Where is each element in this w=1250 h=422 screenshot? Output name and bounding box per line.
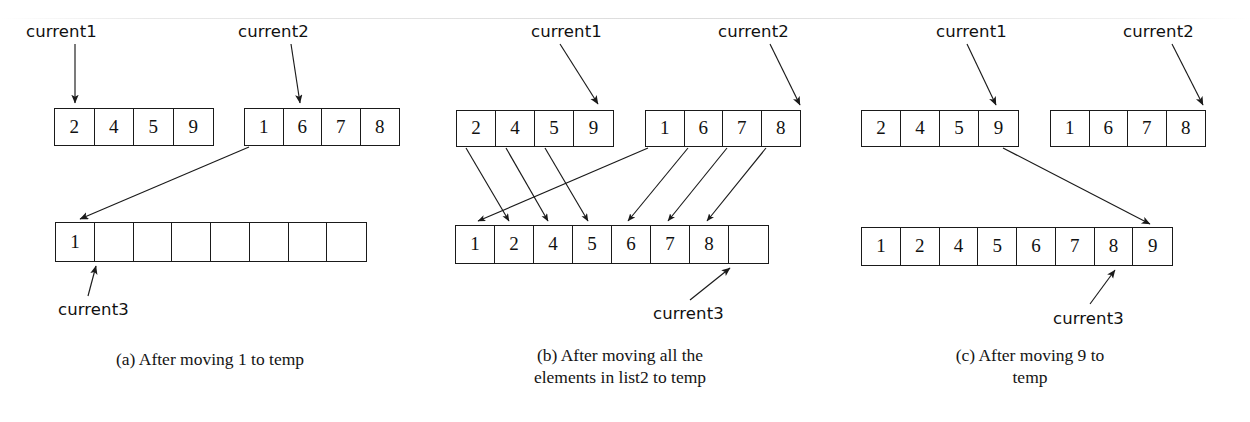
panel-c-current3-label: current3: [1053, 309, 1124, 328]
panel-b-current1-label: current1: [531, 22, 602, 41]
panel-c-move-9-arrow: [1003, 148, 1150, 224]
panel-c-temp-cell-7: 9: [1133, 228, 1172, 265]
panel-a-list2-cell-0: 1: [245, 109, 284, 145]
panel-a-list2-cell-1: 6: [284, 109, 323, 145]
panel-b-move-1-arrow: [478, 148, 648, 221]
panel-b-temp-cell-7: [729, 226, 768, 263]
panel-c-list1-cell-0: 2: [862, 111, 901, 146]
panel-b-current2-label: current2: [718, 22, 789, 41]
panel-c-list2-cell-1: 6: [1090, 111, 1129, 146]
panel-c-temp: 1 2 4 5 6 7 8 9: [861, 227, 1173, 266]
panel-c-current3-arrow: [1090, 270, 1115, 304]
panel-b-list2: 1 6 7 8: [645, 110, 801, 147]
panel-b-current3-label: current3: [653, 304, 724, 323]
panel-a-move-1-arrow: [80, 147, 249, 219]
panel-c-temp-cell-1: 2: [901, 228, 940, 265]
panel-b-move-7-arrow: [668, 148, 727, 221]
panel-a-current2-label: current2: [238, 22, 309, 41]
panel-c-list1-cell-1: 4: [901, 111, 940, 146]
panel-c-current2-arrow: [1172, 44, 1203, 105]
panel-b-list2-cell-3: 8: [762, 111, 800, 146]
panel-b-temp-cell-2: 4: [534, 226, 573, 263]
panel-a-temp-cell-5: [250, 223, 289, 261]
panel-a-caption: (a) After moving 1 to temp: [30, 348, 390, 370]
panel-b-current1-arrow: [560, 44, 598, 104]
panel-b-list1-cell-2: 5: [535, 111, 574, 146]
panel-b-temp-cell-4: 6: [612, 226, 651, 263]
panel-a-temp-cell-1: [95, 223, 134, 261]
panel-c-caption: (c) After moving 9 to temp: [880, 344, 1180, 389]
panel-b-caption: (b) After moving all the elements in lis…: [460, 344, 780, 389]
panel-c-current1-label: current1: [936, 22, 1007, 41]
panel-b-list2-cell-2: 7: [723, 111, 762, 146]
panel-a-list1-cell-1: 4: [95, 109, 135, 145]
panel-c-temp-cell-6: 8: [1095, 228, 1134, 265]
panel-b-current2-arrow: [770, 44, 800, 105]
scan-artifact-line: [0, 18, 1250, 19]
panel-b-list1-cell-3: 9: [574, 111, 613, 146]
panel-a-temp-cell-6: [289, 223, 328, 261]
panel-c-list1-cell-2: 5: [940, 111, 979, 146]
panel-b-move-6-arrow: [628, 148, 688, 221]
figure-canvas: current1 current2 current3 2 4 5 9 1 6 7…: [0, 0, 1250, 422]
panel-c-list2-cell-2: 7: [1128, 111, 1167, 146]
panel-b-temp-cell-6: 8: [690, 226, 729, 263]
panel-a-list1: 2 4 5 9: [54, 108, 214, 146]
panel-b-move-4-arrow: [506, 148, 548, 221]
panel-a-temp-cell-3: [172, 223, 211, 261]
panel-a-temp: 1: [55, 222, 367, 262]
panel-b-temp-cell-5: 7: [651, 226, 690, 263]
panel-a-current3-label: current3: [58, 300, 129, 319]
panel-b-temp: 1 2 4 5 6 7 8: [455, 225, 769, 264]
panel-a-list1-cell-3: 9: [174, 109, 213, 145]
panel-a-current3-arrow: [88, 266, 96, 296]
panel-b-move-8-arrow: [707, 148, 766, 221]
panel-b-list1-cell-1: 4: [496, 111, 535, 146]
panel-a-list1-cell-2: 5: [134, 109, 174, 145]
panel-a-temp-cell-0: 1: [56, 223, 95, 261]
panel-b-temp-cell-0: 1: [456, 226, 495, 263]
panel-b-move-2-arrow: [466, 148, 509, 221]
panel-c-temp-cell-5: 7: [1056, 228, 1095, 265]
panel-b-move-5-arrow: [545, 148, 588, 221]
panel-a-temp-cell-2: [134, 223, 173, 261]
panel-a-temp-cell-4: [211, 223, 250, 261]
panel-c-temp-cell-3: 5: [978, 228, 1017, 265]
panel-c-current1-arrow: [967, 44, 996, 105]
panel-c-list1: 2 4 5 9: [861, 110, 1019, 147]
panel-c-temp-cell-2: 4: [940, 228, 979, 265]
panel-c-list2-cell-0: 1: [1051, 111, 1090, 146]
panel-a-list2-cell-3: 8: [361, 109, 399, 145]
panel-c-current2-label: current2: [1123, 22, 1194, 41]
panel-b-list2-cell-0: 1: [646, 111, 685, 146]
panel-a-current1-label: current1: [26, 22, 97, 41]
panel-c-list2: 1 6 7 8: [1050, 110, 1206, 147]
panel-c-temp-cell-4: 6: [1017, 228, 1056, 265]
panel-a-list2-cell-2: 7: [322, 109, 361, 145]
panel-b-temp-cell-1: 2: [495, 226, 534, 263]
panel-c-list2-cell-3: 8: [1167, 111, 1205, 146]
panel-b-list1: 2 4 5 9: [456, 110, 614, 147]
panel-b-current3-arrow: [690, 268, 730, 300]
panel-c-temp-cell-0: 1: [862, 228, 901, 265]
panel-a-list2: 1 6 7 8: [244, 108, 400, 146]
panel-a-temp-cell-7: [327, 223, 366, 261]
panel-a-list1-cell-0: 2: [55, 109, 95, 145]
panel-b-temp-cell-3: 5: [573, 226, 612, 263]
panel-b-list2-cell-1: 6: [685, 111, 724, 146]
panel-a-current2-arrow: [291, 44, 300, 103]
panel-c-list1-cell-3: 9: [979, 111, 1018, 146]
panel-b-list1-cell-0: 2: [457, 111, 496, 146]
